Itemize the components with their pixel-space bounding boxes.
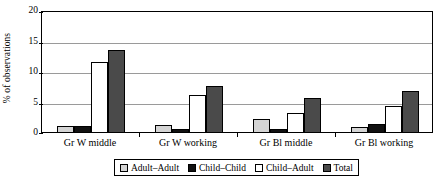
y-tick-label: 20 [18,6,38,16]
x-axis-label-group-1: Gr W working [139,137,237,148]
bar [368,124,385,132]
legend-swatch-icon [255,164,263,172]
bar [385,106,402,132]
x-axis-label-group-0: Gr W middle [41,137,139,148]
bar [270,129,287,132]
legend-label: Child–Adult [266,163,314,173]
bar [287,113,304,132]
bar [57,126,74,132]
legend-label: Child–Child [199,163,246,173]
plot-area [41,11,433,133]
legend-item-child-child: Child–Child [188,163,246,173]
bar-groups [42,12,432,132]
bar [108,50,125,132]
legend-label: Total [334,163,353,173]
legend-item-adult-adult: Adult–Adult [120,163,179,173]
y-axis-title-text: % of observations [2,33,12,103]
bar [189,95,206,132]
bar-group [42,12,140,132]
legend-swatch-icon [120,164,128,172]
y-tick-label: 5 [18,98,38,108]
y-tick-label: 15 [18,37,38,47]
bar [351,127,368,132]
y-tick-label: 0 [18,128,38,138]
bar-group [336,12,434,132]
legend-item-child-adult: Child–Adult [255,163,314,173]
chart-legend: Adult–Adult Child–Child Child–Adult Tota… [114,159,359,176]
x-axis-label-group-3: Gr Bl working [335,137,433,148]
bar-group [140,12,238,132]
legend-swatch-icon [323,164,331,172]
bar [253,119,270,132]
legend-label: Adult–Adult [131,163,179,173]
bar-chart-figure: % of observations 20 15 10 5 0 Gr W midd… [0,0,440,184]
y-tick-label: 10 [18,67,38,77]
bar-group [238,12,336,132]
y-tick-mark-0 [39,133,43,134]
bar [91,62,108,132]
bar [402,91,419,132]
bar [74,126,91,132]
legend-swatch-icon [188,164,196,172]
legend-item-total: Total [323,163,353,173]
bar [304,98,321,132]
bar [206,86,223,132]
bar [172,129,189,132]
bar [155,125,172,132]
x-axis-label-group-2: Gr Bl middle [237,137,335,148]
y-axis-tick-labels: 20 15 10 5 0 [12,0,38,140]
